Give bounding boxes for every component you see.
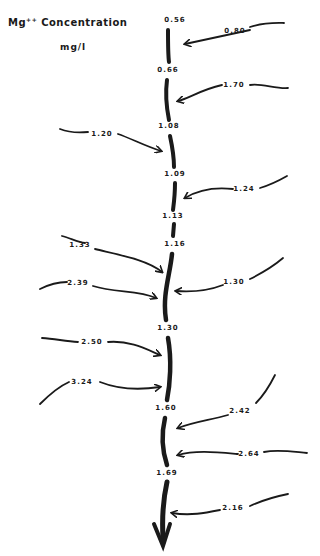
main-channel-concentration-label: 1.08 <box>158 122 179 130</box>
main-channel-segment <box>166 80 169 120</box>
tributary-concentration-label: 2.64 <box>238 450 259 458</box>
main-channel-concentration-label: 0.56 <box>164 16 185 24</box>
main-channel-segment <box>163 418 167 465</box>
tributary-1.30 <box>176 285 223 291</box>
tributary-concentration-label: 2.16 <box>222 504 243 512</box>
tributary-concentration-label: 1.33 <box>69 241 90 249</box>
tributary-concentration-label: 1.30 <box>223 278 244 286</box>
tributary-concentration-label: 1.20 <box>91 130 112 138</box>
tributary-concentration-label: 3.24 <box>71 378 92 386</box>
tributary-concentration-label: 1.24 <box>233 185 254 193</box>
tributary-3.24 <box>100 382 160 389</box>
tributary-2.39 <box>93 286 156 298</box>
main-channel-concentration-label: 1.09 <box>164 170 185 178</box>
tributary-concentration-label: 0.80 <box>224 27 245 35</box>
main-channel-concentration-label: 1.69 <box>156 469 177 477</box>
main-channel-segment <box>173 224 174 236</box>
tributary-concentration-label: 2.50 <box>81 338 102 346</box>
tributary-1.33 <box>95 249 162 272</box>
tributary-concentration-label: 1.70 <box>223 81 244 89</box>
main-channel-concentration-label: 1.60 <box>155 404 176 412</box>
tributary-concentration-label: 2.39 <box>67 279 88 287</box>
main-channel-segment <box>173 183 175 210</box>
main-channel-segment <box>167 338 170 400</box>
main-channel-concentration-label: 1.30 <box>157 324 178 332</box>
tributary-2.64 <box>178 452 238 455</box>
tributary-2.42 <box>178 415 228 428</box>
tributary-2.50 <box>108 342 160 355</box>
tributary-1.70 <box>178 85 222 101</box>
tributary-1.20 <box>118 134 161 151</box>
main-channel-concentration-label: 1.13 <box>162 212 183 220</box>
main-channel-concentration-label: 1.16 <box>164 240 185 248</box>
main-channel-segment <box>170 136 174 167</box>
main-channel-concentration-label: 0.66 <box>157 66 178 74</box>
main-channel-segment <box>168 30 169 62</box>
tributary-1.24 <box>185 188 233 198</box>
tributary-2.16 <box>172 510 220 514</box>
tributary-concentration-label: 2.42 <box>229 407 250 415</box>
main-channel-segment <box>165 254 172 320</box>
